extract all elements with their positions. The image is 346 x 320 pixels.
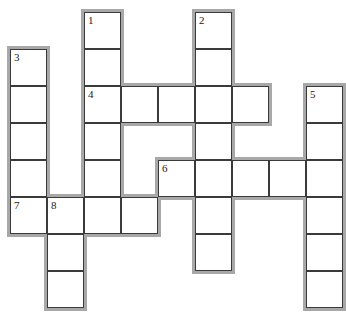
clue-number: 2 — [199, 15, 205, 26]
crossword-cell[interactable]: 5 — [306, 86, 343, 123]
crossword-cell[interactable] — [306, 197, 343, 234]
crossword-cell[interactable] — [158, 86, 195, 123]
crossword-cell[interactable]: 7 — [10, 197, 47, 234]
crossword-cell[interactable] — [195, 234, 232, 271]
crossword-cell[interactable] — [10, 123, 47, 160]
crossword-cell[interactable] — [232, 160, 269, 197]
crossword-cell[interactable] — [84, 123, 121, 160]
crossword-cell[interactable]: 3 — [10, 49, 47, 86]
crossword-cell[interactable]: 1 — [84, 12, 121, 49]
crossword-cell[interactable] — [306, 271, 343, 308]
crossword-cell[interactable] — [10, 160, 47, 197]
crossword-cell[interactable] — [47, 271, 84, 308]
clue-number: 1 — [88, 15, 94, 26]
crossword-cell[interactable]: 8 — [47, 197, 84, 234]
crossword-cell[interactable] — [84, 197, 121, 234]
clue-number: 3 — [14, 52, 20, 63]
crossword-cell[interactable]: 2 — [195, 12, 232, 49]
crossword-cell[interactable] — [232, 86, 269, 123]
crossword-cell[interactable] — [195, 197, 232, 234]
crossword-cell[interactable] — [195, 123, 232, 160]
crossword-grid: 14237568 — [0, 0, 346, 320]
crossword-cell[interactable] — [306, 160, 343, 197]
clue-number: 4 — [88, 89, 94, 100]
crossword-cell[interactable] — [47, 234, 84, 271]
clue-number: 7 — [14, 200, 20, 211]
crossword-cell[interactable] — [84, 49, 121, 86]
crossword-cell[interactable] — [121, 86, 158, 123]
crossword-cell[interactable] — [306, 123, 343, 160]
clue-number: 6 — [162, 163, 168, 174]
crossword-cell[interactable] — [84, 160, 121, 197]
crossword-cell[interactable]: 6 — [158, 160, 195, 197]
crossword-cell[interactable] — [195, 86, 232, 123]
crossword-cell[interactable] — [269, 160, 306, 197]
clue-number: 5 — [310, 89, 316, 100]
crossword-cell[interactable] — [195, 160, 232, 197]
crossword-cell[interactable] — [121, 197, 158, 234]
crossword-cell[interactable] — [195, 49, 232, 86]
crossword-cell[interactable]: 4 — [84, 86, 121, 123]
crossword-cell[interactable] — [10, 86, 47, 123]
clue-number: 8 — [51, 200, 57, 211]
crossword-cell[interactable] — [306, 234, 343, 271]
